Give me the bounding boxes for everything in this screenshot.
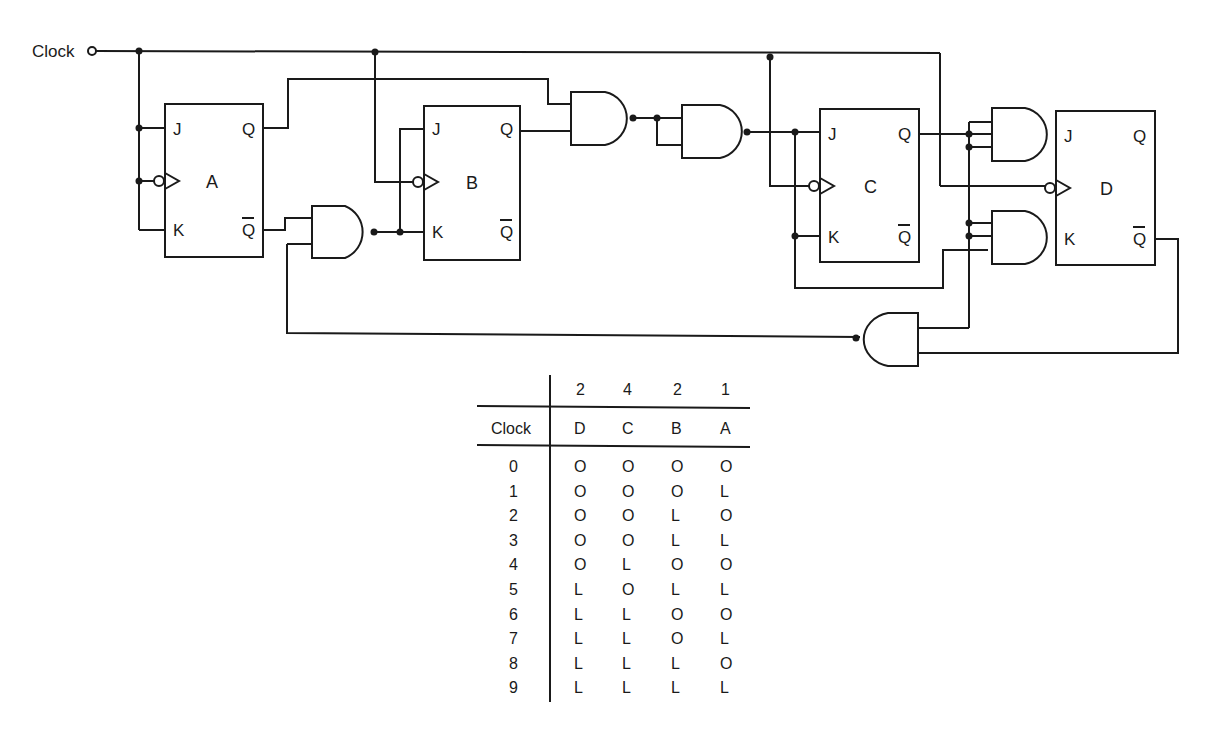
state-cell: L	[720, 532, 729, 549]
state-cell: O	[574, 458, 586, 475]
svg-text:B: B	[466, 173, 478, 193]
state-cell: L	[671, 532, 680, 549]
state-cell: O	[671, 556, 683, 573]
state-cell: O	[574, 483, 586, 500]
svg-text:Q: Q	[500, 223, 513, 242]
table-row: 5LOLL	[509, 581, 729, 598]
svg-text:Q: Q	[1133, 230, 1146, 249]
header-a: A	[720, 420, 731, 437]
weight-b: 2	[673, 381, 682, 398]
state-cell: L	[574, 679, 583, 696]
state-cell: O	[574, 507, 586, 524]
weight-a: 1	[721, 381, 730, 398]
state-cell: O	[622, 507, 634, 524]
svg-text:K: K	[828, 228, 840, 247]
clock-count: 3	[509, 532, 518, 549]
svg-text:J: J	[828, 125, 837, 144]
state-cell: O	[622, 458, 634, 475]
state-cell: O	[622, 483, 634, 500]
clock-count: 1	[509, 483, 518, 500]
table-row: 4OLOO	[509, 556, 732, 573]
state-cell: O	[622, 532, 634, 549]
state-cell: O	[720, 606, 732, 623]
and-gate-b	[312, 206, 363, 258]
state-cell: L	[622, 655, 631, 672]
state-table: 2 4 2 1 Clock D C B A 0OOOO1OOOL2OOLO3OO…	[477, 375, 750, 702]
clock-bus	[96, 51, 940, 53]
state-cell: O	[720, 458, 732, 475]
flipflop-c: J K Q Q C	[809, 109, 919, 262]
table-row: 1OOOL	[509, 483, 729, 500]
state-cell: L	[622, 630, 631, 647]
state-cell: O	[720, 655, 732, 672]
state-cell: O	[671, 606, 683, 623]
state-cell: L	[574, 630, 583, 647]
state-cell: L	[622, 556, 631, 573]
flipflop-a: J K Q Q A	[154, 104, 263, 257]
table-row: 0OOOO	[509, 458, 732, 475]
clock-count: 0	[509, 458, 518, 475]
and-gate-d-j	[992, 108, 1047, 161]
svg-text:K: K	[173, 221, 185, 240]
state-cell: O	[574, 532, 586, 549]
state-cell: L	[671, 679, 680, 696]
table-row: 2OOLO	[509, 507, 732, 524]
flipflop-b: J K Q Q B	[413, 106, 520, 260]
state-cell: L	[622, 606, 631, 623]
state-cell: O	[671, 630, 683, 647]
svg-text:D: D	[1100, 179, 1113, 199]
and-gate-feedback	[864, 313, 918, 366]
svg-text:Q: Q	[898, 125, 911, 144]
table-row: 6LLOO	[509, 606, 732, 623]
weight-d: 2	[576, 381, 585, 398]
table-row: 9LLLL	[509, 679, 729, 696]
svg-text:Q: Q	[898, 228, 911, 247]
state-cell: L	[720, 679, 729, 696]
header-clock: Clock	[491, 420, 532, 437]
state-cell: L	[720, 581, 729, 598]
svg-text:Q: Q	[500, 120, 513, 139]
state-cell: O	[622, 581, 634, 598]
state-cell: L	[574, 581, 583, 598]
svg-text:J: J	[1064, 127, 1073, 146]
svg-text:J: J	[432, 120, 441, 139]
svg-text:K: K	[1064, 230, 1076, 249]
state-cell: L	[622, 679, 631, 696]
clock-count: 7	[509, 630, 518, 647]
state-cell: O	[574, 556, 586, 573]
table-row: 3OOLL	[509, 532, 729, 549]
clock-label: Clock	[32, 42, 75, 61]
circuit-diagram: Clock J K Q Q A J K Q Q B	[0, 0, 1217, 736]
clock-count: 9	[509, 679, 518, 696]
header-b: B	[671, 420, 682, 437]
state-cell: L	[720, 630, 729, 647]
state-cell: L	[671, 655, 680, 672]
and-gate-2	[682, 105, 742, 158]
clock-count: 4	[509, 556, 518, 573]
header-c: C	[622, 420, 634, 437]
table-row: 8LLLO	[509, 655, 732, 672]
clock-count: 2	[509, 507, 518, 524]
svg-text:A: A	[206, 172, 218, 192]
and-gate-d-k	[992, 211, 1047, 264]
clock-count: 8	[509, 655, 518, 672]
svg-text:K: K	[432, 223, 444, 242]
state-cell: O	[720, 507, 732, 524]
flipflop-d: J K Q Q D	[1045, 111, 1155, 265]
state-cell: L	[574, 655, 583, 672]
state-cell: O	[720, 556, 732, 573]
state-cell: O	[671, 458, 683, 475]
header-d: D	[574, 420, 586, 437]
clock-count: 5	[509, 581, 518, 598]
clock-input-terminal	[88, 47, 96, 55]
svg-text:Q: Q	[242, 221, 255, 240]
state-cell: L	[720, 483, 729, 500]
and-gate-1	[571, 92, 627, 145]
svg-text:C: C	[864, 177, 877, 197]
clock-count: 6	[509, 606, 518, 623]
weight-c: 4	[623, 381, 632, 398]
state-cell: O	[671, 483, 683, 500]
table-row: 7LLOL	[509, 630, 729, 647]
svg-text:Q: Q	[242, 120, 255, 139]
state-cell: L	[671, 581, 680, 598]
